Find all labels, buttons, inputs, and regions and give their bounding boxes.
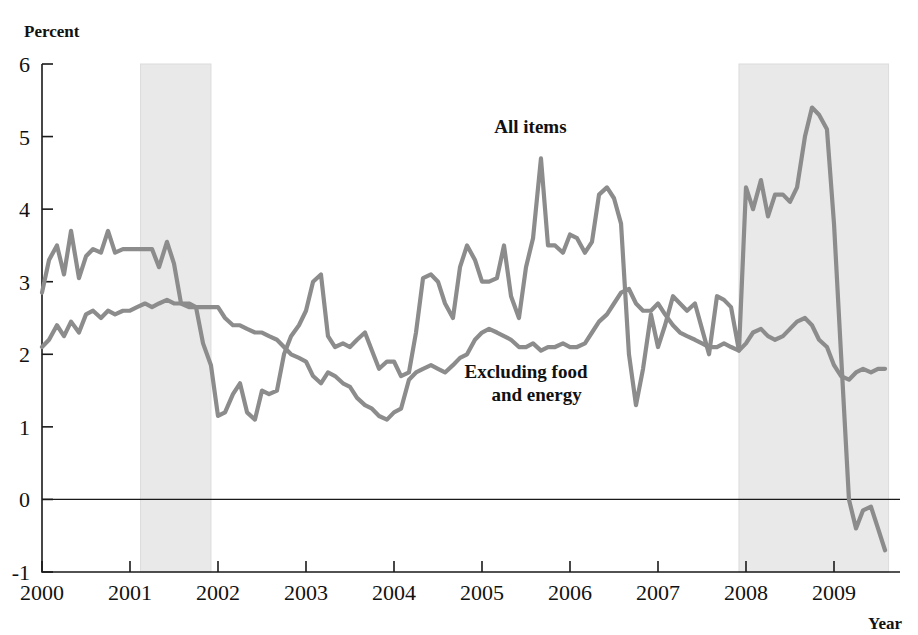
- core-label-line2: and energy: [491, 384, 582, 405]
- chart-svg: 6543210-1 200020012002200320042005200620…: [0, 0, 918, 635]
- y-tick-label: 6: [19, 52, 30, 77]
- y-axis-title: Percent: [24, 22, 80, 41]
- x-tick-label: 2006: [548, 580, 592, 605]
- y-tick-label: 4: [19, 197, 30, 222]
- core-label-line1: Excluding food: [464, 361, 587, 382]
- y-tick-label: 1: [19, 415, 30, 440]
- x-tick-label: 2002: [196, 580, 240, 605]
- x-tick-label: 2000: [20, 580, 64, 605]
- x-tick-labels-group: 2000200120022003200420052006200720082009: [20, 580, 856, 605]
- y-tick-label: 0: [19, 487, 30, 512]
- recession-2008: [739, 64, 889, 572]
- x-tick-label: 2004: [372, 580, 416, 605]
- recession-2001: [141, 64, 211, 572]
- x-tick-label: 2003: [284, 580, 328, 605]
- x-tick-label: 2009: [812, 580, 856, 605]
- y-tick-label: 3: [19, 270, 30, 295]
- x-tick-label: 2007: [636, 580, 680, 605]
- y-tick-label: 5: [19, 125, 30, 150]
- x-tick-label: 2008: [724, 580, 768, 605]
- all-items-label: All items: [494, 116, 566, 137]
- inflation-line-chart: 6543210-1 200020012002200320042005200620…: [0, 0, 918, 635]
- x-tick-label: 2005: [460, 580, 504, 605]
- x-tick-label: 2001: [108, 580, 152, 605]
- x-axis-title: Year: [868, 614, 902, 633]
- recession-shading-group: [141, 64, 889, 572]
- y-tick-labels-group: 6543210-1: [12, 52, 30, 585]
- y-tick-label: 2: [19, 342, 30, 367]
